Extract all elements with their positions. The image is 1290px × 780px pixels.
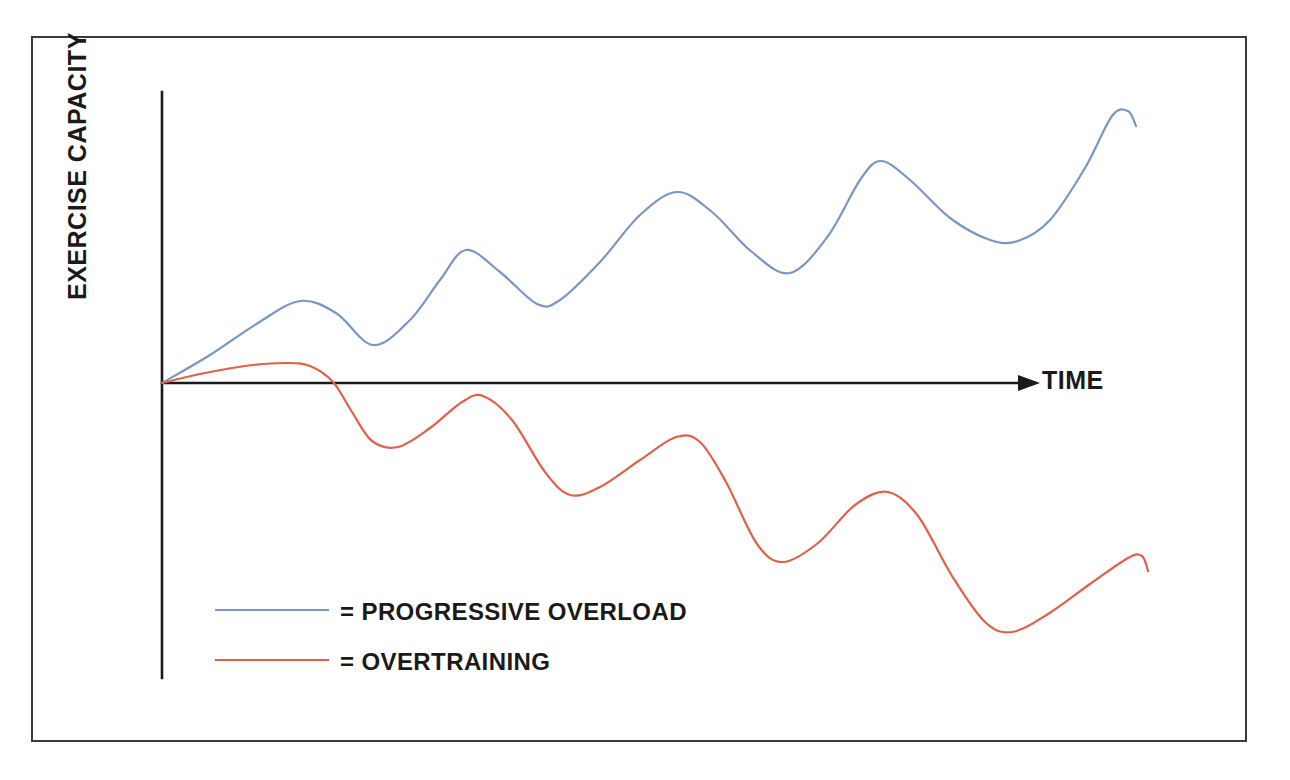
legend-label-overtraining: = OVERTRAINING xyxy=(340,648,550,676)
legend-label-progressive-overload: = PROGRESSIVE OVERLOAD xyxy=(340,598,687,626)
y-axis-title: EXERCISE CAPACITY xyxy=(63,0,92,300)
chart-figure: EXERCISE CAPACITY TIME = PROGRESSIVE OVE… xyxy=(0,0,1290,780)
x-axis-title: TIME xyxy=(1042,366,1104,395)
